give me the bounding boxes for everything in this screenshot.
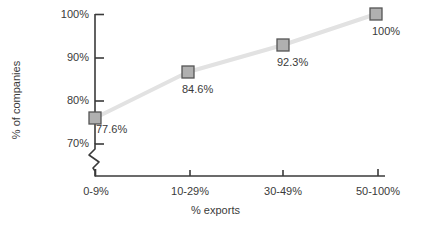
x-tick-label-0: 0-9% <box>65 186 127 197</box>
data-label-3: 100% <box>372 26 400 37</box>
y-axis-title-wrap: % of companies <box>8 30 24 170</box>
data-label-1: 84.6% <box>182 84 213 95</box>
data-label-0: 77.6% <box>96 124 127 135</box>
x-tick-label-1: 10-29% <box>159 186 221 197</box>
y-tick-label-80: 80% <box>47 95 89 106</box>
y-tick-label-70: 70% <box>47 138 89 149</box>
y-tick-label-90: 90% <box>47 52 89 63</box>
data-point-marker-2 <box>277 39 289 51</box>
x-axis-title: % exports <box>0 205 431 216</box>
x-tick-label-2: 30-49% <box>252 186 314 197</box>
y-axis-title: % of companies <box>10 61 22 139</box>
series-line <box>95 14 376 118</box>
x-tick-label-3: 50-100% <box>347 186 409 197</box>
y-tick-label-100: 100% <box>47 9 89 20</box>
data-point-marker-3 <box>370 8 382 20</box>
y-axis-break-zigzag <box>89 144 99 176</box>
data-point-marker-1 <box>182 66 194 78</box>
data-label-2: 92.3% <box>277 57 308 68</box>
line-chart: 100% 90% 80% 70% 0-9% 10-29% 30-49% 50-1… <box>0 0 431 226</box>
